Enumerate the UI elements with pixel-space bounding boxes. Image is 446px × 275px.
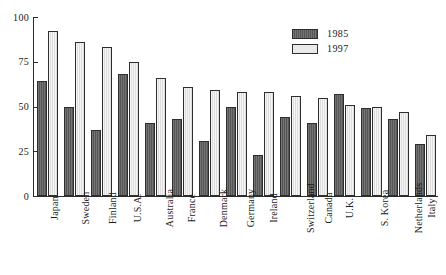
x-axis-label: Ireland [253, 200, 274, 221]
x-axis-label: S. Korea [361, 200, 382, 221]
x-axis-line [33, 196, 438, 197]
x-axis-label: Australia [145, 200, 166, 221]
bar-denmark-1997 [210, 90, 220, 196]
bar-ireland-1997 [264, 92, 274, 196]
bar-sweden-1985 [64, 107, 74, 197]
bar-u-s-a--1985 [118, 74, 128, 196]
bar-netherlands-1997 [399, 112, 409, 196]
x-axis-label: Netherlands [388, 200, 409, 221]
x-axis-label: Japan [37, 200, 58, 221]
bar-group [172, 17, 193, 196]
bar-netherlands-1985 [388, 119, 398, 196]
bar-group [388, 17, 409, 196]
bar-u-k--1997 [345, 105, 355, 196]
x-axis-label: U.K. [334, 200, 355, 221]
x-axis-labels: JapanSwedenFinlandU.S.A.AustraliaFranceD… [33, 200, 438, 275]
legend-item-1985: 1985 [292, 27, 349, 40]
bar-japan-1997 [48, 31, 58, 196]
legend-item-1997: 1997 [292, 42, 349, 55]
bar-group [64, 17, 85, 196]
x-axis-label-text: Ireland [268, 193, 279, 223]
bar-sweden-1997 [75, 42, 85, 196]
bar-australia-1985 [145, 123, 155, 196]
bar-group [253, 17, 274, 196]
bar-france-1997 [183, 87, 193, 196]
bar-japan-1985 [37, 81, 47, 196]
x-axis-label-text: Canada [323, 192, 334, 223]
bar-switzerland-1985 [280, 117, 290, 196]
x-axis-label: Denmark [199, 200, 220, 221]
bar-australia-1997 [156, 78, 166, 196]
x-axis-label-text: U.K. [345, 198, 356, 218]
x-axis-label-text: Sweden [80, 192, 91, 225]
chart-legend: 1985 1997 [292, 27, 349, 57]
bar-switzerland-1997 [291, 96, 301, 196]
bar-group [199, 17, 220, 196]
x-axis-label: France [172, 200, 193, 221]
x-axis-label: Sweden [64, 200, 85, 221]
bar-u-s-a--1997 [129, 62, 139, 196]
bar-group [415, 17, 436, 196]
y-axis-tick-label: 0 [24, 192, 29, 202]
bar-group [37, 17, 58, 196]
y-axis-tick-label: 75 [18, 57, 29, 67]
y-axis-tick-label: 100 [13, 13, 29, 23]
bar-canada-1997 [318, 98, 328, 196]
x-axis-label: Finland [91, 200, 112, 221]
bar-group [361, 17, 382, 196]
bar-finland-1997 [102, 47, 112, 196]
y-axis-tick-label: 25 [18, 147, 29, 157]
bar-germany-1985 [226, 107, 236, 197]
bar-chart: 0255075100 JapanSwedenFinlandU.S.A.Austr… [0, 0, 446, 275]
bars-layer [33, 17, 438, 196]
y-axis-tick-label: 50 [18, 102, 29, 112]
bar-group [145, 17, 166, 196]
legend-swatch-1997-icon [292, 44, 318, 54]
bar-group [226, 17, 247, 196]
x-axis-label-text: Italy [425, 198, 436, 217]
bar-finland-1985 [91, 130, 101, 196]
bar-denmark-1985 [199, 141, 209, 196]
x-axis-label-text: France [186, 194, 197, 222]
bar-france-1985 [172, 119, 182, 196]
x-axis-label: Germany [226, 200, 247, 221]
x-axis-label: Italy [415, 200, 436, 221]
x-axis-label: U.S.A. [118, 200, 139, 221]
legend-swatch-1985-icon [292, 29, 318, 39]
bar-s-korea-1997 [372, 107, 382, 197]
x-axis-label-text: Finland [107, 192, 118, 224]
y-axis-tick-mark [33, 196, 38, 197]
bar-u-k--1985 [334, 94, 344, 196]
x-axis-label-text: U.S.A. [132, 194, 143, 223]
x-axis-label-text: Japan [49, 196, 60, 220]
bar-s-korea-1985 [361, 108, 371, 196]
bar-group [118, 17, 139, 196]
bar-italy-1997 [426, 135, 436, 196]
x-axis-label: Switzerland [280, 200, 301, 221]
x-axis-label: Canada [307, 200, 328, 221]
legend-label-1997: 1997 [327, 44, 349, 54]
bar-germany-1997 [237, 92, 247, 196]
legend-label-1985: 1985 [327, 29, 349, 39]
bar-group [91, 17, 112, 196]
